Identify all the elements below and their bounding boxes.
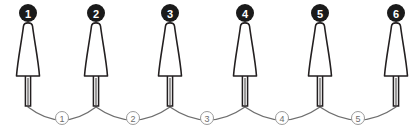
- spindle-node-3: 3: [159, 4, 182, 106]
- spindle-cone-body: [159, 23, 182, 76]
- spindle-node-1: 1: [17, 4, 40, 106]
- link-badge-label: 1: [59, 114, 64, 124]
- spindle-node-2: 2: [85, 4, 108, 106]
- spindle-node-5: 5: [309, 4, 332, 106]
- spindle-node-6: 6: [385, 4, 408, 106]
- link-badge-5: 5: [352, 112, 365, 125]
- spindle-chain-diagram: 123456 12345: [0, 0, 413, 126]
- link-badge-label: 4: [279, 114, 284, 124]
- node-badge-label: 6: [393, 8, 399, 20]
- spindle-node-4: 4: [234, 4, 257, 106]
- link-badge-3: 3: [201, 112, 214, 125]
- node-badge-label: 3: [167, 8, 173, 20]
- link-badge-label: 3: [204, 114, 209, 124]
- link-badge-label: 5: [355, 114, 360, 124]
- nodes-layer: 123456: [17, 4, 408, 106]
- spindle-cone-body: [309, 23, 332, 76]
- node-badge-label: 1: [25, 8, 31, 20]
- node-badge-label: 2: [93, 8, 99, 20]
- spindle-cone-body: [85, 23, 108, 76]
- link-badge-2: 2: [127, 112, 140, 125]
- link-badge-label: 2: [130, 114, 135, 124]
- spindle-cone-body: [17, 23, 40, 76]
- spindle-cone-body: [385, 23, 408, 76]
- node-badge-label: 4: [242, 8, 249, 20]
- diagram-canvas: 123456 12345: [0, 0, 413, 126]
- node-badge-label: 5: [317, 8, 323, 20]
- link-labels-layer: 12345: [56, 112, 365, 125]
- spindle-cone-body: [234, 23, 257, 76]
- link-badge-4: 4: [276, 112, 289, 125]
- link-badge-1: 1: [56, 112, 69, 125]
